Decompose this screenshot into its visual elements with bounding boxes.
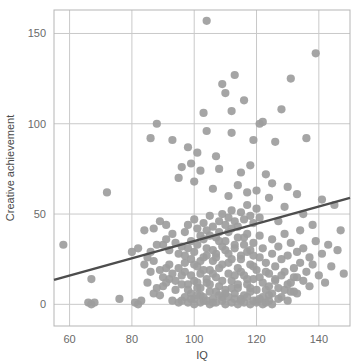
chart-canvas: 6080100120140 050100150 IQ Creative achi…: [0, 0, 361, 361]
data-point: [249, 262, 257, 270]
data-point: [321, 279, 329, 287]
data-point: [246, 212, 254, 220]
x-axis-title: IQ: [196, 349, 208, 361]
data-point: [175, 174, 183, 182]
x-tick-label: 100: [185, 333, 203, 345]
data-point: [271, 277, 279, 285]
data-point: [240, 96, 248, 104]
data-point: [262, 268, 270, 276]
data-point: [128, 248, 136, 256]
data-point: [162, 235, 170, 243]
data-point: [209, 246, 217, 254]
data-point: [271, 138, 279, 146]
data-point: [293, 190, 301, 198]
data-point: [143, 279, 151, 287]
data-point: [218, 277, 226, 285]
y-tick-label: 150: [28, 27, 46, 39]
data-point: [268, 289, 276, 297]
data-point: [234, 233, 242, 241]
data-point: [190, 261, 198, 269]
data-point: [231, 244, 239, 252]
data-point: [234, 280, 242, 288]
data-point: [277, 271, 285, 279]
data-point: [262, 170, 270, 178]
data-point: [206, 212, 214, 220]
data-point: [196, 167, 204, 175]
y-axis-tick-labels: 050100150: [28, 27, 46, 310]
data-point: [115, 295, 123, 303]
data-point: [284, 251, 292, 259]
data-point: [150, 257, 158, 265]
data-point: [234, 181, 242, 189]
scatter-plot-figure: 6080100120140 050100150 IQ Creative achi…: [0, 0, 361, 361]
data-point: [209, 185, 217, 193]
y-tick-label: 0: [40, 298, 46, 310]
data-point: [156, 291, 164, 299]
x-tick-label: 80: [126, 333, 138, 345]
data-point: [256, 120, 264, 128]
data-point: [333, 246, 341, 254]
data-point: [256, 273, 264, 281]
data-point: [215, 165, 223, 173]
data-point: [228, 206, 236, 214]
data-point: [156, 266, 164, 274]
data-point: [203, 251, 211, 259]
data-point: [168, 270, 176, 278]
x-tick-label: 60: [63, 333, 75, 345]
data-point: [287, 239, 295, 247]
data-point: [265, 282, 273, 290]
data-point: [209, 223, 217, 231]
data-point: [178, 280, 186, 288]
data-point: [243, 230, 251, 238]
data-point: [268, 250, 276, 258]
y-tick-label: 100: [28, 118, 46, 130]
data-point: [187, 271, 195, 279]
data-point: [146, 134, 154, 142]
data-point: [206, 280, 214, 288]
data-point: [150, 224, 158, 232]
data-point: [302, 268, 310, 276]
data-point: [243, 201, 251, 209]
y-axis-title: Creative achievement: [4, 115, 16, 221]
data-point: [290, 264, 298, 272]
data-point: [280, 230, 288, 238]
data-point: [309, 221, 317, 229]
data-point: [237, 168, 245, 176]
data-point: [221, 237, 229, 245]
data-point: [268, 300, 276, 308]
data-point: [280, 286, 288, 294]
data-point: [218, 80, 226, 88]
data-point: [137, 297, 145, 305]
data-point: [190, 215, 198, 223]
data-point: [240, 241, 248, 249]
data-point: [259, 244, 267, 252]
data-point: [243, 188, 251, 196]
data-point: [199, 219, 207, 227]
data-point: [256, 232, 264, 240]
data-point: [146, 268, 154, 276]
data-point: [215, 264, 223, 272]
data-point: [318, 250, 326, 258]
data-point: [268, 179, 276, 187]
data-point: [59, 241, 67, 249]
data-point: [315, 271, 323, 279]
data-point: [224, 250, 232, 258]
data-point: [193, 149, 201, 157]
data-point: [199, 266, 207, 274]
data-point: [103, 188, 111, 196]
x-axis-tick-labels: 6080100120140: [63, 333, 328, 345]
data-point: [249, 136, 257, 144]
data-point: [171, 286, 179, 294]
data-point: [340, 270, 348, 278]
data-point: [140, 261, 148, 269]
data-point: [284, 183, 292, 191]
data-point: [277, 105, 285, 113]
data-point: [87, 275, 95, 283]
data-point: [243, 275, 251, 283]
data-point: [153, 120, 161, 128]
data-point: [296, 226, 304, 234]
data-point: [262, 259, 270, 267]
data-point: [305, 282, 313, 290]
data-point: [268, 235, 276, 243]
data-point: [224, 192, 232, 200]
